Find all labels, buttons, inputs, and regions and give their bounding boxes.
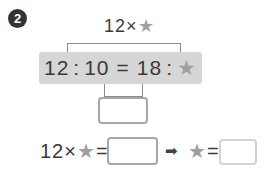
bottom-equation-row: 12×★= xyxy=(40,138,109,164)
star-icon: ★ xyxy=(77,139,96,163)
star-value-answer-box[interactable] xyxy=(219,139,257,165)
problem-number-badge: 2 xyxy=(8,9,27,28)
multiplier-answer-box[interactable] xyxy=(98,97,148,124)
top-expression: 12×★ xyxy=(104,15,155,37)
top-expression-left: 12× xyxy=(104,16,138,37)
arrow-right-icon: ➡ xyxy=(165,142,178,160)
bottom-equals-2: = xyxy=(207,140,220,163)
ratio-a: 12 xyxy=(44,56,69,80)
ratio-c: 18 xyxy=(137,56,162,80)
star-icon: ★ xyxy=(188,139,207,163)
ratio-colon-1: : xyxy=(73,56,80,80)
star-icon: ★ xyxy=(138,15,155,37)
ratio-colon-2: : xyxy=(166,56,173,80)
top-bracket-horizontal xyxy=(67,43,181,44)
ratio-equation: 12 : 10 = 18 : ★ xyxy=(39,52,202,84)
product-answer-box[interactable] xyxy=(107,137,158,165)
star-result-expression: ★= xyxy=(188,138,220,164)
star-icon: ★ xyxy=(177,56,197,80)
bottom-left-expression: 12× xyxy=(40,140,77,163)
ratio-b: 10 xyxy=(84,56,109,80)
ratio-equals: = xyxy=(117,56,130,80)
